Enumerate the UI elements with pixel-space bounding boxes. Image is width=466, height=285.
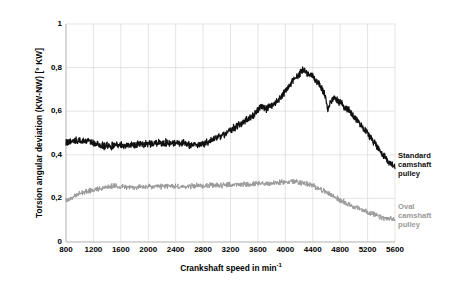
x-axis-title-text: Crankshaft speed in min <box>180 263 276 273</box>
plot-area <box>0 0 466 285</box>
x-tick-label: 5600 <box>375 246 415 254</box>
y-tick-label: 1 <box>34 20 62 28</box>
y-tick-label: 0,8 <box>34 64 62 72</box>
legend-label-oval-camshaft-pulley: Oval camshaft pulley <box>398 203 431 230</box>
torsion-deviation-chart: Torsion angular deviation (KW-NW) [° KW]… <box>0 0 466 285</box>
y-tick-label: 0 <box>34 238 62 246</box>
y-tick-label: 0,4 <box>34 151 62 159</box>
y-tick-label: 0,6 <box>34 107 62 115</box>
x-axis-title: Crankshaft speed in min-1 <box>66 262 396 273</box>
x-axis-title-exponent: -1 <box>277 262 282 268</box>
y-axis-tick-labels: 00,20,40,60,81 <box>30 0 62 285</box>
y-tick-label: 0,2 <box>34 194 62 202</box>
legend-label-standard-camshaft-pulley: Standard camshaft pulley <box>398 152 431 179</box>
